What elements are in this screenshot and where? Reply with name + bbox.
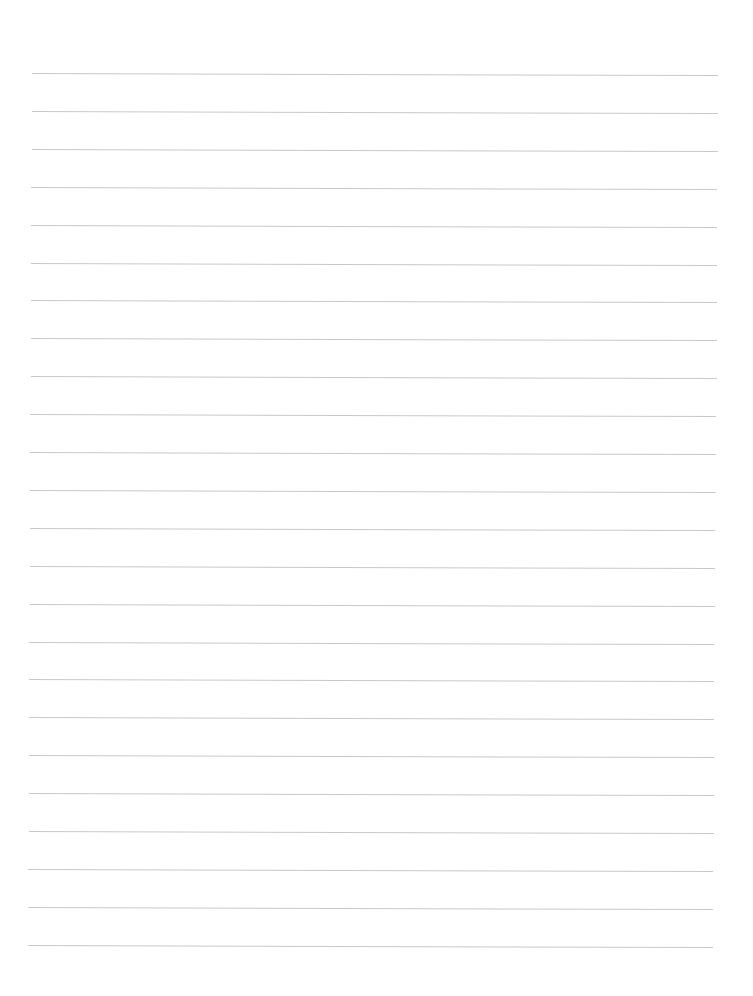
lined-paper-page [0,0,753,996]
ruled-line [31,187,717,190]
ruled-line [28,945,713,948]
ruled-line [29,793,714,796]
ruled-line [31,263,717,266]
ruled-line [30,566,715,569]
ruled-line [28,869,713,872]
ruled-line [30,528,715,531]
ruled-line [31,376,717,379]
ruled-line [29,642,714,645]
ruled-line [32,73,718,76]
ruled-line [30,490,716,493]
ruled-line [29,717,714,720]
ruled-line [31,225,717,228]
ruled-line [32,111,718,114]
ruled-line [29,831,714,834]
ruled-line [29,679,714,682]
ruled-line [28,907,713,910]
ruled-line [31,300,717,303]
ruled-line [32,149,718,152]
ruled-line [31,338,717,341]
ruled-line [30,414,716,417]
ruled-line [30,452,716,455]
ruled-line [30,604,715,607]
ruled-line [29,755,714,758]
